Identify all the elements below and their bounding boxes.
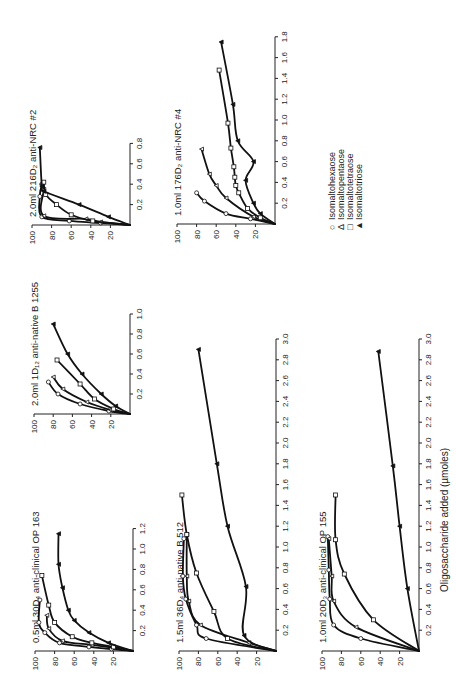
- x-tick-label: 0.4: [281, 603, 290, 615]
- data-point-square-marker: [246, 206, 250, 210]
- shared-x-axis-label: Oligosaccharide added (µmoles): [439, 448, 450, 592]
- panel-title: 2.0ml 1D₁₂ anti-native B 1255: [29, 282, 40, 406]
- data-point-square-marker: [226, 121, 230, 125]
- data-point-triangle-filled-marker: [57, 562, 61, 566]
- y-tick-label: 60: [68, 419, 77, 428]
- data-point-square-marker: [334, 538, 338, 542]
- y-tick-label: 40: [87, 230, 96, 239]
- y-tick-label: 60: [357, 656, 366, 665]
- x-tick-label: 1.2: [424, 520, 433, 532]
- data-point-square-marker: [212, 609, 216, 613]
- series-line-isomaltotriose: [198, 349, 276, 651]
- y-tick-label: 100: [173, 229, 182, 243]
- x-tick-label: 0.6: [138, 584, 147, 596]
- data-point-triangle-filled-marker: [196, 347, 200, 351]
- data-point-square-marker: [78, 382, 82, 386]
- x-tick-label: 1.4: [424, 499, 433, 511]
- x-tick-label: 0.2: [135, 388, 144, 400]
- x-tick-label: 0.2: [135, 198, 144, 210]
- y-tick-label: 20: [251, 229, 260, 238]
- data-point-square-marker: [40, 574, 44, 578]
- x-tick-label: 0.4: [135, 368, 144, 380]
- x-tick-label: 1.6: [424, 478, 433, 490]
- panel-3: 204060801000.20.40.60.81.02.0ml 1D₁₂ ant…: [29, 282, 144, 434]
- x-tick-label: 1.6: [281, 478, 290, 490]
- series-line-isomaltohexaose: [328, 537, 419, 651]
- data-point-triangle-filled-marker: [231, 102, 235, 106]
- data-point-circle-marker: [46, 380, 50, 384]
- data-point-square-marker: [69, 213, 73, 217]
- x-tick-label: 1.8: [281, 458, 290, 470]
- data-point-circle-marker: [224, 212, 228, 216]
- series-line-isomaltotriose: [40, 148, 130, 226]
- y-tick-label: 40: [90, 656, 99, 665]
- data-point-triangle-filled-marker: [244, 178, 248, 182]
- y-tick-label: 20: [253, 656, 262, 665]
- data-point-triangle-filled-marker: [51, 322, 55, 326]
- y-tick-label: 60: [70, 656, 79, 665]
- panel-4: 204060801000.20.40.60.81.01.20.5ml 30D₄ …: [30, 512, 147, 671]
- series-line-isomaltotriose: [58, 534, 133, 651]
- y-tick-label: 60: [67, 230, 76, 239]
- data-point-circle-marker: [56, 392, 60, 396]
- series-line-isomaltohexaose: [183, 539, 276, 651]
- x-tick-label: 0.8: [138, 563, 147, 575]
- data-point-square-marker: [371, 618, 375, 622]
- series-line-isomaltotetraose: [42, 576, 133, 652]
- data-point-square-marker: [342, 572, 346, 576]
- x-tick-label: 0.6: [424, 582, 433, 594]
- y-tick-label: 20: [106, 230, 115, 239]
- data-point-triangle-open-marker: [45, 613, 49, 617]
- series-line-isomaltotriose: [378, 352, 419, 652]
- y-tick-label: 80: [194, 656, 203, 665]
- x-tick-label: 0.8: [280, 135, 289, 147]
- y-tick-label: 80: [49, 419, 58, 428]
- panel-title: 2.0ml 216D₂ anti-NRC #2: [27, 110, 38, 217]
- x-tick-label: 1.2: [281, 520, 290, 532]
- panel-title: 1.0ml 176D₂ anti-NRC #4: [172, 109, 183, 216]
- data-point-circle-marker: [249, 217, 253, 221]
- y-tick-label: 100: [30, 419, 39, 433]
- x-tick-label: 1.0: [280, 114, 289, 126]
- x-tick-label: 0.4: [138, 604, 147, 616]
- data-point-triangle-open-marker: [200, 147, 204, 151]
- data-point-circle-marker: [332, 623, 336, 627]
- x-tick-label: 0.8: [281, 562, 290, 574]
- data-point-square-marker: [229, 146, 233, 150]
- data-point-square-marker: [234, 184, 238, 188]
- x-tick-label: 1.0: [135, 308, 144, 320]
- data-point-square-marker: [55, 358, 59, 362]
- data-point-square-marker: [47, 603, 51, 607]
- x-tick-label: 0.2: [281, 624, 290, 636]
- x-tick-label: 2.2: [424, 416, 433, 428]
- x-tick-label: 0.6: [280, 155, 289, 167]
- data-point-circle-marker: [359, 637, 363, 641]
- x-tick-label: 0.2: [138, 624, 147, 636]
- data-point-triangle-open-marker: [51, 375, 55, 379]
- panel-5: 204060801000.20.40.60.81.01.21.41.61.82.…: [174, 333, 290, 670]
- x-tick-label: 0.4: [135, 178, 144, 190]
- x-tick-label: 2.0: [281, 437, 290, 449]
- data-point-triangle-filled-marker: [60, 586, 64, 590]
- data-point-circle-marker: [195, 191, 199, 195]
- data-point-circle-marker: [78, 402, 82, 406]
- data-point-triangle-filled-marker: [219, 40, 223, 44]
- x-tick-label: 1.6: [280, 51, 289, 63]
- panel-2: 204060801000.20.40.60.81.01.21.41.61.81.…: [172, 31, 289, 244]
- data-point-triangle-filled-marker: [405, 587, 409, 591]
- x-tick-label: 1.2: [138, 522, 147, 534]
- data-point-square-marker: [194, 571, 198, 575]
- data-point-square-marker: [258, 216, 262, 220]
- legend-symbol: ▲: [354, 221, 364, 230]
- data-point-triangle-filled-marker: [236, 139, 240, 143]
- figure: 204060801000.20.40.60.82.0ml 216D₂ anti-…: [0, 0, 456, 688]
- x-tick-label: 0.6: [135, 158, 144, 170]
- x-tick-label: 1.8: [280, 31, 289, 43]
- data-point-triangle-filled-marker: [57, 532, 61, 536]
- x-tick-label: 2.6: [424, 374, 433, 386]
- data-point-triangle-filled-marker: [38, 145, 42, 149]
- data-point-circle-marker: [38, 194, 42, 198]
- data-point-square-marker: [334, 493, 338, 497]
- data-point-triangle-filled-marker: [244, 585, 248, 589]
- x-tick-label: 2.6: [281, 374, 290, 386]
